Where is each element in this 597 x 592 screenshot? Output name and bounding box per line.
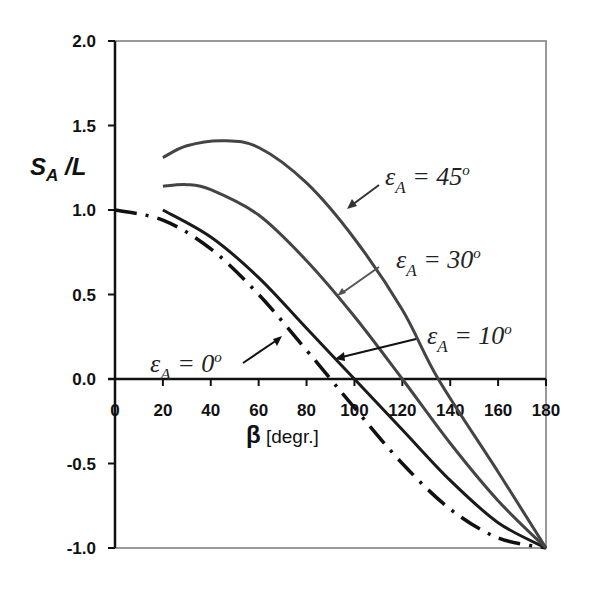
x-axis-label: β [degr.] xyxy=(246,421,319,448)
x-tick-label: 0 xyxy=(110,401,119,420)
y-tick-label: -0.5 xyxy=(67,455,96,474)
y-axis-label: SA /L xyxy=(30,153,86,185)
y-tick-label: 2.0 xyxy=(72,32,96,51)
annotation-eps0: εA = 0o xyxy=(150,336,282,384)
annotation-eps45: εA = 45o xyxy=(347,162,470,209)
x-tick-label: 140 xyxy=(436,401,464,420)
y-ticks: 2.01.51.00.50.0-0.5-1.0 xyxy=(67,32,115,558)
plot-frame xyxy=(115,41,546,548)
annotation-eps30: εA = 30o xyxy=(337,245,481,296)
x-tick-label: 60 xyxy=(249,401,268,420)
y-tick-label: 1.5 xyxy=(72,117,96,136)
y-tick-label: 1.0 xyxy=(72,201,96,220)
svg-text:εA = 10o: εA = 10o xyxy=(427,321,512,356)
x-tick-label: 80 xyxy=(297,401,316,420)
x-tick-label: 180 xyxy=(532,401,560,420)
chart: 2.01.51.00.50.0-0.5-1.0 0204060801001201… xyxy=(0,0,597,592)
x-tick-label: 40 xyxy=(201,401,220,420)
x-tick-label: 20 xyxy=(153,401,172,420)
y-tick-label: -1.0 xyxy=(67,539,96,558)
x-tick-label: 160 xyxy=(484,401,512,420)
svg-text:εA = 45o: εA = 45o xyxy=(385,162,470,197)
svg-text:εA = 30o: εA = 30o xyxy=(396,245,481,280)
y-tick-label: 0.0 xyxy=(72,370,96,389)
y-tick-label: 0.5 xyxy=(72,286,96,305)
